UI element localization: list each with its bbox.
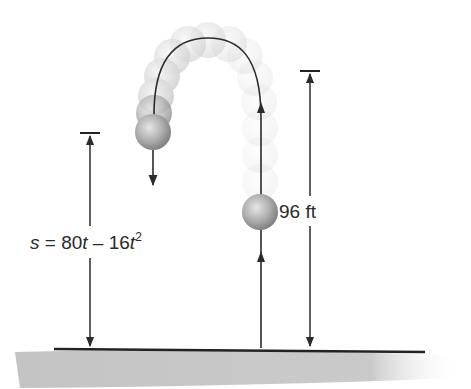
up-arrow-icon (257, 251, 265, 262)
position-equation: s = 80t – 16t2 (30, 230, 142, 254)
equation-part: = 80 (40, 232, 83, 253)
projectile-diagram-svg (0, 0, 471, 389)
ghost-ball-trail (136, 22, 278, 200)
diagram: s = 80t – 16t2 96 ft (0, 0, 471, 389)
equation-exponent: 2 (135, 230, 142, 244)
falling-ball (135, 114, 171, 150)
rising-ball (242, 194, 278, 230)
equation-part: – 16 (88, 232, 130, 253)
ground (15, 349, 460, 388)
height-label: 96 ft (279, 201, 316, 223)
equation-var: s (30, 232, 40, 253)
